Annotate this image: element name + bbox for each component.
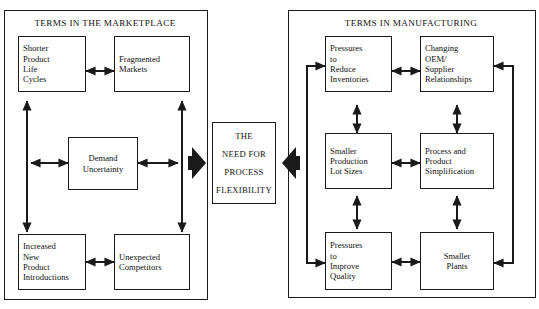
node-label: Unexpected Competitors: [119, 252, 162, 273]
node-label: Shorter Product Life Cycles: [23, 43, 50, 84]
node-label: Changing OEM/ Supplier Relationships: [425, 43, 472, 84]
node-label: Demand Uncertainty: [83, 153, 124, 174]
panel-marketplace-title: TERMS IN THE MARKETPLACE: [4, 18, 206, 28]
node-smaller-production-lot-sizes[interactable]: Smaller Production Lot Sizes: [325, 133, 392, 189]
node-process-and-product-simplification[interactable]: Process and Product Simplification: [420, 133, 494, 189]
node-increased-new-product-introductions[interactable]: Increased New Product Introductions: [18, 234, 86, 290]
node-fragmented-markets[interactable]: Fragmented Markets: [114, 36, 190, 92]
node-pressures-to-improve-quality[interactable]: Pressures to Improve Quality: [325, 232, 392, 290]
node-smaller-plants[interactable]: Smaller Plants: [420, 232, 494, 290]
node-label: Smaller Plants: [444, 251, 471, 272]
node-label: Smaller Production Lot Sizes: [330, 146, 368, 177]
panel-manufacturing-title: TERMS IN MANUFACTURING: [288, 18, 534, 28]
node-demand-uncertainty[interactable]: Demand Uncertainty: [68, 137, 138, 190]
center-line-2: NEED FOR: [222, 149, 266, 159]
center-line-1: THE: [235, 131, 253, 141]
node-need-for-process-flexibility[interactable]: THE NEED FOR PROCESS FLEXIBILITY: [212, 122, 276, 204]
center-line-3: PROCESS: [224, 167, 263, 177]
node-label: Pressures to Reduce Inventories: [330, 43, 369, 84]
node-label: Process and Product Simplification: [425, 146, 474, 177]
node-label: Fragmented Markets: [119, 54, 160, 75]
node-pressures-to-reduce-inventories[interactable]: Pressures to Reduce Inventories: [325, 36, 392, 92]
node-changing-oem-supplier-relationships[interactable]: Changing OEM/ Supplier Relationships: [420, 36, 494, 92]
center-line-4: FLEXIBILITY: [216, 185, 272, 195]
node-label: Pressures to Improve Quality: [330, 240, 362, 281]
node-label: Increased New Product Introductions: [23, 241, 69, 282]
node-shorter-product-life-cycles[interactable]: Shorter Product Life Cycles: [18, 36, 86, 92]
diagram-canvas: TERMS IN THE MARKETPLACE TERMS IN MANUFA…: [0, 0, 539, 309]
node-unexpected-competitors[interactable]: Unexpected Competitors: [114, 234, 190, 290]
